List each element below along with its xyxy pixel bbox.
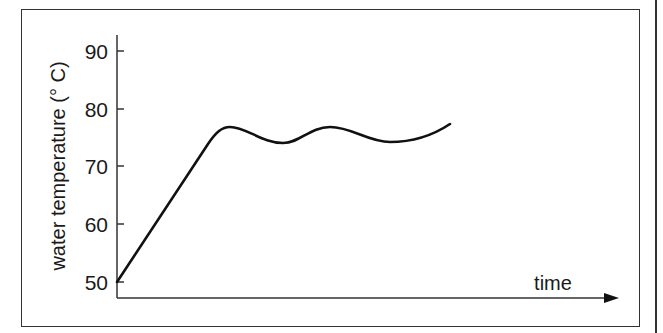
x-axis-arrow-icon [604,293,619,303]
y-tick-label-70: 70 [85,155,108,178]
y-tick-label-80: 80 [85,98,108,121]
line-chart: 90 80 70 60 50 water temperature (° C) t… [0,0,663,333]
y-axis-title: water temperature (° C) [47,61,69,271]
temperature-line [117,124,450,282]
x-axis-title: time [534,272,572,294]
y-tick-label-50: 50 [85,271,108,294]
y-ticks [117,51,124,282]
y-tick-label-60: 60 [85,213,108,236]
y-tick-labels: 90 80 70 60 50 [85,40,108,294]
y-tick-label-90: 90 [85,40,108,63]
